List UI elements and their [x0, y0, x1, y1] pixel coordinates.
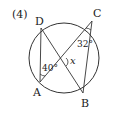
- point-label-B: B: [81, 97, 89, 110]
- angle-arc-A: [40, 74, 45, 76]
- angle-arc-x: [66, 58, 68, 66]
- angle-label-C: 32°: [77, 39, 93, 49]
- circle-geometry-diagram: (4) D C A B 40° 32° x: [0, 0, 116, 115]
- circle: [29, 23, 99, 93]
- problem-number: (4): [12, 8, 28, 21]
- point-label-C: C: [93, 7, 101, 20]
- angle-arc-C: [86, 28, 91, 30]
- angle-label-A: 40°: [42, 63, 58, 73]
- angle-label-x: x: [70, 55, 76, 66]
- segment-DB: [41, 28, 83, 93]
- point-label-A: A: [32, 86, 42, 99]
- point-label-D: D: [35, 15, 44, 28]
